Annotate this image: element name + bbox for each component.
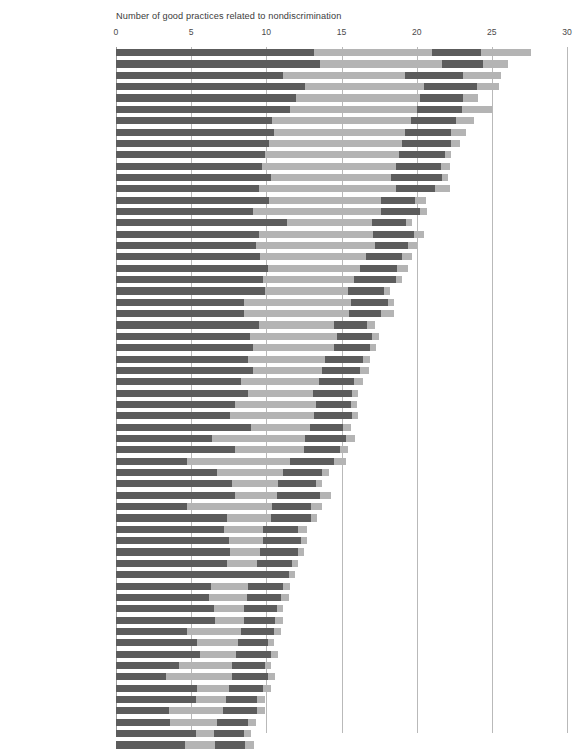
- bar-row[interactable]: Korea, Rep.: [116, 478, 567, 489]
- bar-row[interactable]: Bolivia: [116, 195, 567, 206]
- stacked-bar[interactable]: [116, 60, 567, 67]
- bar-row[interactable]: Thailand: [116, 694, 567, 705]
- stacked-bar[interactable]: [116, 594, 567, 601]
- stacked-bar[interactable]: [116, 265, 567, 272]
- stacked-bar[interactable]: [116, 719, 567, 726]
- bar-row[interactable]: Georgia: [116, 285, 567, 296]
- stacked-bar[interactable]: [116, 151, 567, 158]
- bar-row[interactable]: Ukraine: [116, 637, 567, 648]
- bar-row[interactable]: Tajikistan: [116, 331, 567, 342]
- bar-row[interactable]: Zambia: [116, 126, 567, 137]
- stacked-bar[interactable]: [116, 333, 567, 340]
- bar-row[interactable]: Ethiopia: [116, 705, 567, 716]
- bar-row[interactable]: Côte d'Ivoire: [116, 467, 567, 478]
- bar-row[interactable]: Poland: [116, 58, 567, 69]
- stacked-bar[interactable]: [116, 321, 567, 328]
- bar-row[interactable]: Russian Federation: [116, 524, 567, 535]
- bar-row[interactable]: Jordan: [116, 649, 567, 660]
- bar-row[interactable]: Uruguay: [116, 172, 567, 183]
- stacked-bar[interactable]: [116, 390, 567, 397]
- bar-row[interactable]: Nicaragua: [116, 410, 567, 421]
- bar-row[interactable]: Niger: [116, 263, 567, 274]
- stacked-bar[interactable]: [116, 469, 567, 476]
- bar-row[interactable]: Mexico: [116, 319, 567, 330]
- stacked-bar[interactable]: [116, 287, 567, 294]
- stacked-bar[interactable]: [116, 651, 567, 658]
- stacked-bar[interactable]: [116, 83, 567, 90]
- bar-row[interactable]: Morocco: [116, 297, 567, 308]
- stacked-bar[interactable]: [116, 117, 567, 124]
- stacked-bar[interactable]: [116, 129, 567, 136]
- stacked-bar[interactable]: [116, 231, 567, 238]
- bar-row[interactable]: Senegal: [116, 399, 567, 410]
- bar-row[interactable]: Turkey: [116, 422, 567, 433]
- stacked-bar[interactable]: [116, 378, 567, 385]
- bar-row[interactable]: Tanzania: [116, 115, 567, 126]
- stacked-bar[interactable]: [116, 197, 567, 204]
- stacked-bar[interactable]: [116, 741, 567, 748]
- stacked-bar[interactable]: [116, 344, 567, 351]
- bar-row[interactable]: Malawi: [116, 183, 567, 194]
- stacked-bar[interactable]: [116, 163, 567, 170]
- bar-row[interactable]: Netherlands: [116, 92, 567, 103]
- bar-row[interactable]: Sudan: [116, 535, 567, 546]
- bar-row[interactable]: Benin: [116, 592, 567, 603]
- stacked-bar[interactable]: [116, 639, 567, 646]
- stacked-bar[interactable]: [116, 174, 567, 181]
- stacked-bar[interactable]: [116, 49, 567, 56]
- bar-row[interactable]: Cameroon: [116, 558, 567, 569]
- bar-row[interactable]: Denmark: [116, 161, 567, 172]
- bar-row[interactable]: Nepal: [116, 626, 567, 637]
- bar-row[interactable]: Malaysia: [116, 728, 567, 739]
- bar-row[interactable]: Bosnia and Herzegovina: [116, 353, 567, 364]
- stacked-bar[interactable]: [116, 435, 567, 442]
- bar-row[interactable]: Uganda: [116, 376, 567, 387]
- bar-row[interactable]: Spain: [116, 47, 567, 58]
- bar-row[interactable]: Nigeria: [116, 546, 567, 557]
- stacked-bar[interactable]: [116, 605, 567, 612]
- bar-row[interactable]: Armenia: [116, 580, 567, 591]
- bar-row[interactable]: Guatemala: [116, 490, 567, 501]
- stacked-bar[interactable]: [116, 707, 567, 714]
- bar-row[interactable]: Colombia: [116, 149, 567, 160]
- stacked-bar[interactable]: [116, 401, 567, 408]
- bar-row[interactable]: Bangladesh: [116, 456, 567, 467]
- bar-row[interactable]: Romania: [116, 104, 567, 115]
- stacked-bar[interactable]: [116, 242, 567, 249]
- bar-row[interactable]: Chile: [116, 444, 567, 455]
- stacked-bar[interactable]: [116, 514, 567, 521]
- bar-row[interactable]: Egypt, Arab Rep.: [116, 660, 567, 671]
- stacked-bar[interactable]: [116, 685, 567, 692]
- bar-row[interactable]: Lao PDR: [116, 501, 567, 512]
- stacked-bar[interactable]: [116, 299, 567, 306]
- bar-row[interactable]: Mozambique: [116, 206, 567, 217]
- stacked-bar[interactable]: [116, 492, 567, 499]
- bar-row[interactable]: Greece: [116, 70, 567, 81]
- stacked-bar[interactable]: [116, 367, 567, 374]
- bar-row[interactable]: Ghana: [116, 388, 567, 399]
- bar-row[interactable]: Kenya: [116, 138, 567, 149]
- bar-row[interactable]: Peru: [116, 365, 567, 376]
- bar-row[interactable]: Kyrgyz Republic: [116, 433, 567, 444]
- stacked-bar[interactable]: [116, 140, 567, 147]
- bar-row[interactable]: Liberia: [116, 671, 567, 682]
- stacked-bar[interactable]: [116, 628, 567, 635]
- stacked-bar[interactable]: [116, 480, 567, 487]
- stacked-bar[interactable]: [116, 537, 567, 544]
- stacked-bar[interactable]: [116, 458, 567, 465]
- stacked-bar[interactable]: [116, 548, 567, 555]
- bar-row[interactable]: Zimbabwe: [116, 251, 567, 262]
- stacked-bar[interactable]: [116, 185, 567, 192]
- stacked-bar[interactable]: [116, 583, 567, 590]
- stacked-bar[interactable]: [116, 276, 567, 283]
- bar-row[interactable]: Vietnam: [116, 342, 567, 353]
- bar-row[interactable]: Burkina Faso: [116, 603, 567, 614]
- stacked-bar[interactable]: [116, 730, 567, 737]
- stacked-bar[interactable]: [116, 253, 567, 260]
- stacked-bar[interactable]: [116, 560, 567, 567]
- stacked-bar[interactable]: [116, 94, 567, 101]
- stacked-bar[interactable]: [116, 662, 567, 669]
- bar-row[interactable]: Philippines: [116, 274, 567, 285]
- bar-row[interactable]: Serbia: [116, 512, 567, 523]
- stacked-bar[interactable]: [116, 106, 567, 113]
